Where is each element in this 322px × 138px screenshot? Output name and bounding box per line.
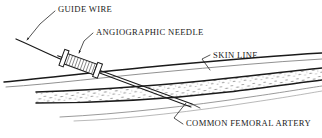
angiographic-needle-leader (79, 33, 93, 53)
figure-canvas: GUIDE WIRE ANGIOGRAPHIC NEEDLE SKIN LINE… (0, 0, 322, 138)
label-angiographic-needle: ANGIOGRAPHIC NEEDLE (96, 28, 204, 37)
label-guide-wire: GUIDE WIRE (58, 5, 112, 14)
label-skin-line: SKIN LINE (213, 51, 258, 60)
label-common-femoral-artery: COMMON FEMORAL ARTERY (186, 119, 311, 128)
guide-wire-leader (27, 11, 55, 40)
common-femoral-artery (36, 68, 322, 103)
